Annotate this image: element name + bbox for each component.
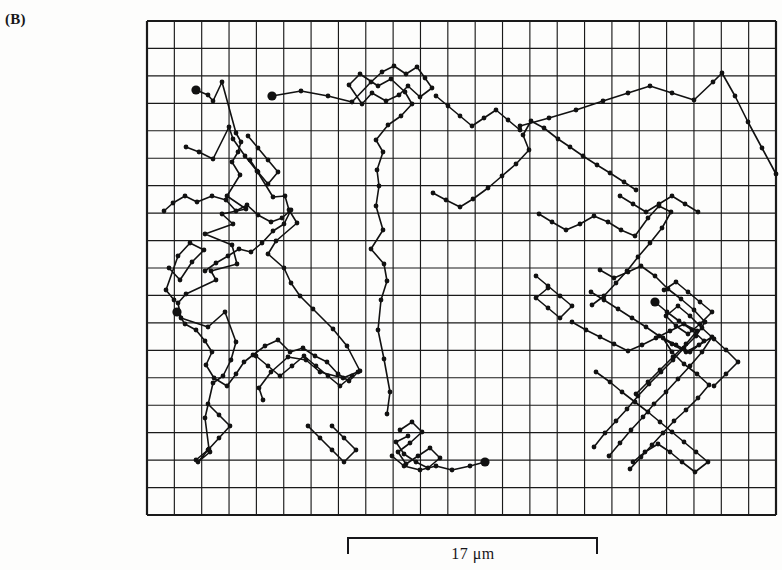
track-point-marker — [589, 290, 594, 295]
track-point-marker — [630, 316, 635, 321]
track-point-marker — [547, 116, 552, 121]
track-point-marker — [700, 326, 705, 331]
track-point-marker — [313, 354, 318, 359]
track-point-marker — [692, 308, 697, 313]
track-point-marker — [379, 298, 384, 303]
track-point-marker — [612, 276, 617, 281]
track-point-marker — [558, 316, 563, 321]
track-point-marker — [374, 204, 379, 209]
track-point-marker — [570, 320, 575, 325]
track-point-marker — [616, 307, 621, 312]
track-point-marker — [608, 380, 613, 385]
track-point-marker — [302, 354, 307, 359]
track-point-marker — [164, 288, 169, 293]
track-point-marker — [245, 203, 250, 208]
track-point-marker — [614, 419, 619, 424]
track-point-marker — [608, 171, 613, 176]
track-path — [436, 96, 520, 130]
track-point-marker — [376, 328, 381, 333]
track-point-marker — [172, 298, 177, 303]
track-point-marker — [278, 374, 283, 379]
track-point-marker — [239, 140, 244, 145]
track-point-marker — [661, 431, 666, 436]
track-point-marker — [696, 396, 701, 401]
track-point-marker — [394, 440, 399, 445]
track-point-marker — [375, 168, 380, 173]
track-point-marker — [612, 342, 617, 347]
track-point-marker — [620, 390, 625, 395]
track-point-marker — [618, 194, 623, 199]
track-point-marker — [347, 83, 352, 88]
track-point-marker — [468, 464, 473, 469]
track-point-marker — [326, 374, 331, 379]
track-point-marker — [674, 280, 679, 285]
track-point-marker — [360, 102, 365, 107]
track-point-marker — [234, 209, 239, 214]
track-point-marker — [230, 160, 235, 165]
track-point-marker — [325, 360, 330, 365]
track-point-marker — [376, 84, 381, 89]
track-point-marker — [648, 84, 653, 89]
track-point-marker — [295, 221, 300, 226]
track-point-marker — [203, 416, 208, 421]
track-point-marker — [676, 377, 681, 382]
track-path — [166, 243, 204, 300]
track-point-marker — [246, 134, 251, 139]
track-point-marker — [243, 154, 248, 159]
track-point-marker — [210, 194, 215, 199]
track-point-marker — [386, 123, 391, 128]
track-point-marker — [546, 286, 551, 291]
track-point-marker — [226, 254, 231, 259]
track-point-marker — [399, 114, 404, 119]
track-point-marker — [210, 350, 215, 355]
track-path — [164, 196, 291, 271]
track-point-marker — [234, 372, 239, 377]
track-point-marker — [677, 319, 682, 324]
track-point-marker — [434, 464, 439, 469]
track-point-marker — [471, 197, 476, 202]
track-point-marker — [674, 324, 679, 329]
track-point-marker — [345, 344, 350, 349]
track-point-marker — [408, 441, 413, 446]
track-point-marker — [306, 424, 311, 429]
track-point-marker — [622, 180, 627, 185]
track-point-marker — [646, 216, 651, 221]
track-point-marker — [670, 194, 675, 199]
track-point-marker — [631, 202, 636, 207]
track-point-marker — [206, 325, 211, 330]
track-point-marker — [720, 71, 725, 76]
track-point-marker — [381, 228, 386, 233]
track-point-marker — [178, 278, 183, 283]
cell-track — [594, 370, 711, 475]
track-point-marker — [184, 145, 189, 150]
track-point-marker — [736, 360, 741, 365]
track-point-marker — [682, 440, 687, 445]
track-point-marker — [680, 460, 685, 465]
track-point-marker — [380, 70, 385, 75]
track-point-marker — [634, 392, 639, 397]
track-point-marker — [206, 402, 211, 407]
track-path — [664, 282, 738, 386]
track-point-marker — [688, 350, 693, 355]
track-point-marker — [266, 158, 271, 163]
track-point-marker — [176, 254, 181, 259]
track-point-marker — [206, 93, 211, 98]
track-point-marker — [430, 86, 435, 91]
track-point-marker — [298, 294, 303, 299]
track-point-marker — [314, 364, 319, 369]
track-path — [433, 121, 636, 207]
track-point-marker — [671, 355, 676, 360]
track-point-marker — [398, 428, 403, 433]
track-point-marker — [203, 269, 208, 274]
track-point-marker — [256, 213, 261, 218]
track-point-marker — [636, 255, 641, 260]
track-point-marker — [438, 456, 443, 461]
track-point-marker — [602, 298, 607, 303]
track-point-marker — [223, 310, 228, 315]
track-point-marker — [656, 442, 661, 447]
track-point-marker — [646, 410, 651, 415]
track-point-marker — [221, 374, 226, 379]
track-point-marker — [668, 329, 673, 334]
track-point-marker — [631, 460, 636, 465]
track-point-marker — [342, 436, 347, 441]
